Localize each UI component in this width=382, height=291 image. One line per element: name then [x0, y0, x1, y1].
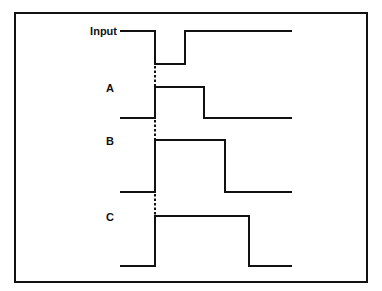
signal-labels: Input A B C	[90, 25, 117, 223]
waveform-input	[120, 31, 292, 64]
signal-waveforms	[120, 31, 292, 266]
diagram-frame	[15, 13, 367, 282]
signal-label-c: C	[106, 211, 114, 223]
waveform-a	[120, 87, 292, 118]
signal-label-b: B	[106, 135, 114, 147]
signal-label-a: A	[106, 82, 114, 94]
signal-label-input: Input	[90, 25, 117, 37]
timing-diagram: Input A B C	[0, 0, 382, 291]
waveform-c	[120, 216, 292, 266]
waveform-b	[120, 140, 292, 192]
